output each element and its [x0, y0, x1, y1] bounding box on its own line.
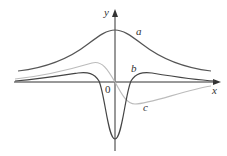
y-axis-label: y	[103, 6, 109, 18]
x-axis-label: x	[211, 84, 217, 96]
curve-c	[15, 62, 211, 104]
curve-c-label: c	[143, 101, 148, 113]
chart: y x 0 a b c	[0, 0, 227, 156]
curve-b-label: b	[131, 62, 137, 74]
curve-a-label: a	[136, 25, 142, 37]
y-axis-arrow-icon	[112, 9, 118, 17]
origin-label: 0	[105, 83, 111, 95]
